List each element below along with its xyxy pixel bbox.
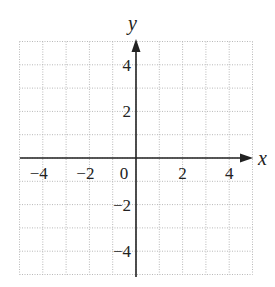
x-tick-label: 0	[120, 164, 129, 183]
x-tick-label: −2	[76, 164, 94, 183]
x-axis-arrow-icon	[240, 154, 253, 163]
y-axis-arrow-icon	[132, 39, 141, 52]
x-tick-label: 4	[225, 164, 234, 183]
y-tick-label: 4	[123, 56, 132, 75]
y-tick-label: −4	[113, 242, 132, 261]
x-tick-label: 2	[178, 164, 187, 183]
axes	[20, 39, 253, 277]
x-axis-label: x	[257, 147, 267, 169]
y-tick-label: 2	[123, 102, 132, 121]
y-tick-label: −2	[113, 196, 131, 215]
x-tick-labels: −4−2024	[30, 164, 234, 183]
x-tick-label: −4	[30, 164, 49, 183]
coordinate-plane: x y −4−2024 42−2−4	[0, 0, 275, 287]
y-axis-label: y	[126, 12, 137, 35]
